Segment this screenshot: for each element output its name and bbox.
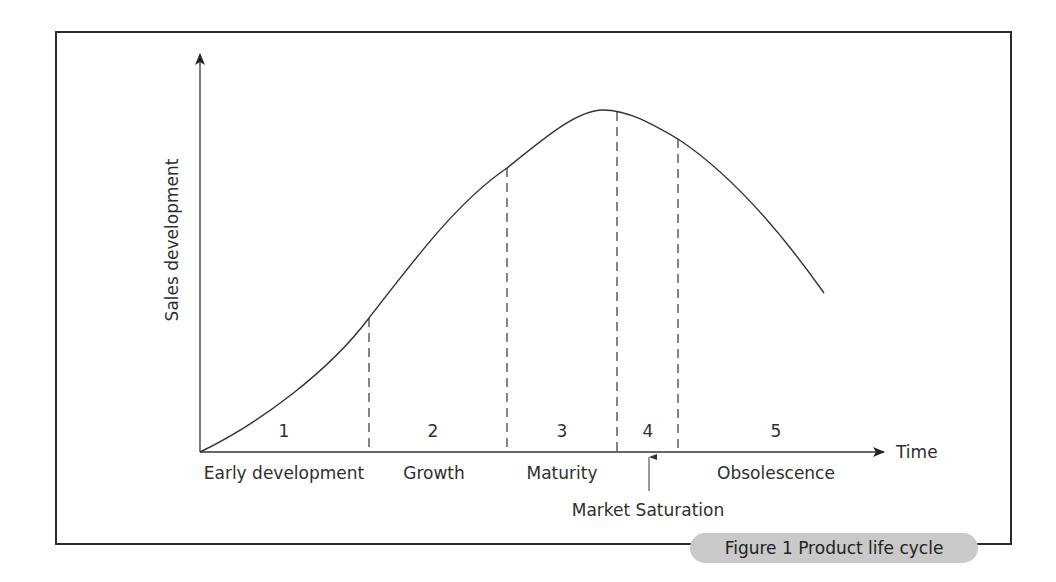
stage-1-name: Early development xyxy=(204,463,365,483)
stage-2-number: 2 xyxy=(428,421,439,441)
stage-4-number: 4 xyxy=(643,421,654,441)
x-axis-label: Time xyxy=(895,442,938,462)
stage-boundaries xyxy=(369,112,678,452)
stage-3-number: 3 xyxy=(557,421,568,441)
chart-canvas: Sales development Time 1 2 3 4 5 Early d… xyxy=(0,0,1056,582)
stage-3-name: Maturity xyxy=(527,463,598,483)
stage-5-number: 5 xyxy=(771,421,782,441)
stage-1-number: 1 xyxy=(279,421,290,441)
stage-5-name: Obsolescence xyxy=(717,463,835,483)
y-axis-label: Sales development xyxy=(162,158,182,321)
product-life-cycle-figure: Sales development Time 1 2 3 4 5 Early d… xyxy=(0,0,1056,582)
figure-caption: Figure 1 Product life cycle xyxy=(690,533,978,563)
sales-curve xyxy=(200,110,824,452)
stage-2-name: Growth xyxy=(403,463,465,483)
market-saturation-label: Market Saturation xyxy=(572,500,724,520)
